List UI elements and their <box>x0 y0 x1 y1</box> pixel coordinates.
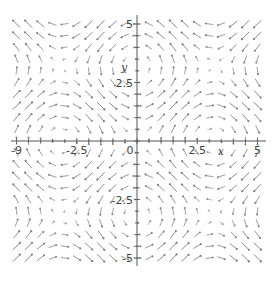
vector-arrow <box>194 91 202 96</box>
vector-arrow <box>230 92 238 98</box>
vector-arrow <box>242 91 250 99</box>
vector-arrow <box>170 90 178 98</box>
vector-arrow <box>75 127 79 132</box>
vector-arrow <box>75 80 80 85</box>
vector-arrow <box>241 184 249 192</box>
vector-arrow <box>14 230 20 238</box>
y-tick-label: 2.5 <box>116 77 134 90</box>
vector-arrow <box>110 150 114 157</box>
vector-arrow <box>207 81 212 83</box>
vector-arrow <box>170 101 178 109</box>
vector-arrow <box>52 68 54 72</box>
vector-arrow <box>108 21 116 28</box>
vector-arrow <box>220 210 222 214</box>
vector-arrow <box>100 67 102 75</box>
vector-arrow <box>25 242 33 250</box>
vector-arrow <box>88 68 90 76</box>
vector-arrow <box>110 91 118 98</box>
vector-arrow <box>208 210 210 212</box>
vector-arrow <box>157 32 165 39</box>
vector-arrow <box>255 114 262 122</box>
vector-arrow <box>195 56 199 61</box>
vector-arrow <box>87 79 92 87</box>
vector-arrow <box>219 233 225 237</box>
vector-arrow <box>183 78 188 86</box>
vector-arrow <box>99 208 101 216</box>
vector-arrow <box>121 104 129 108</box>
vector-arrow <box>13 90 21 98</box>
vector-arrow <box>183 230 189 238</box>
vector-arrow <box>243 56 247 64</box>
vector-arrow <box>108 33 116 40</box>
vector-arrow <box>109 44 115 51</box>
vector-arrow <box>12 160 19 168</box>
vector-arrow <box>121 163 128 167</box>
vector-arrow <box>157 20 165 27</box>
vector-arrow <box>50 232 56 236</box>
vector-arrow <box>159 207 161 214</box>
vector-arrow <box>76 69 78 74</box>
vector-arrow <box>121 46 127 50</box>
vector-arrow <box>242 243 250 251</box>
vector-arrow <box>86 56 90 64</box>
vector-arrow <box>97 184 105 192</box>
vector-arrow <box>255 231 261 239</box>
y-axis-label: y <box>120 61 128 74</box>
vector-arrow <box>72 186 80 191</box>
vector-arrow <box>144 173 152 177</box>
vector-arrow <box>74 57 78 62</box>
vector-arrow <box>206 198 211 200</box>
vector-arrow <box>99 79 104 87</box>
vector-arrow <box>207 151 211 153</box>
vector-arrow <box>147 127 151 131</box>
vector-arrow <box>98 149 102 157</box>
vector-arrow <box>159 125 163 132</box>
vector-arrow <box>109 103 117 110</box>
vector-arrow <box>206 116 213 118</box>
vector-arrow <box>50 115 57 119</box>
vector-arrow <box>242 102 250 110</box>
vector-arrow <box>170 148 174 156</box>
vector-arrow <box>207 233 213 235</box>
vector-arrow <box>158 242 166 249</box>
vector-arrow <box>254 103 262 111</box>
vector-arrow <box>121 186 129 190</box>
vector-arrow <box>219 58 223 62</box>
vector-arrow <box>230 255 238 261</box>
vector-arrow <box>169 183 177 191</box>
vector-arrow <box>231 232 237 238</box>
vector-arrow <box>207 57 211 59</box>
vector-arrow <box>64 70 66 72</box>
vector-arrow <box>146 244 154 248</box>
vector-arrow <box>170 113 177 121</box>
vector-arrow <box>218 116 225 120</box>
vector-arrow <box>206 93 214 95</box>
vector-arrow <box>27 207 29 215</box>
vector-arrow <box>14 78 19 86</box>
vector-arrow <box>254 196 259 204</box>
vector-arrow <box>96 32 104 40</box>
vector-arrow <box>60 35 68 37</box>
vector-arrow <box>72 174 80 179</box>
vector-arrow <box>121 245 129 249</box>
vector-arrow <box>24 160 31 168</box>
vector-arrow <box>244 126 248 134</box>
x-tick-label: -9 <box>11 144 22 157</box>
vector-arrow <box>26 113 33 121</box>
x-tick-label: 0 <box>127 144 134 157</box>
vector-arrow <box>170 242 178 250</box>
vector-arrow <box>85 161 92 169</box>
vector-arrow <box>221 70 223 74</box>
vector-arrow <box>242 44 248 52</box>
vector-arrow <box>98 231 104 239</box>
vector-arrow <box>230 197 235 203</box>
vector-arrow <box>97 243 105 251</box>
vector-arrow <box>158 90 166 97</box>
vector-arrow <box>12 183 20 191</box>
vector-arrow <box>244 208 246 216</box>
vector-arrow <box>254 44 260 52</box>
vector-arrow <box>169 19 177 27</box>
vector-arrow <box>219 81 224 85</box>
vector-arrow <box>122 233 128 237</box>
vector-arrow <box>193 32 201 37</box>
